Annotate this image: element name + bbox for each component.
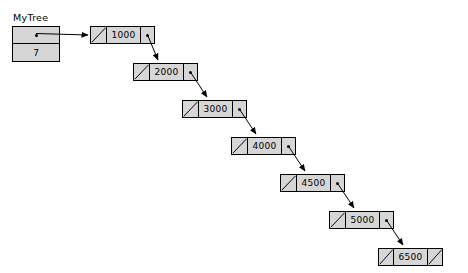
node-next-pointer-cell bbox=[379, 212, 393, 228]
node-next-pointer-cell bbox=[330, 175, 344, 191]
tree-header: MyTree 7 bbox=[12, 12, 60, 62]
node-value: 4000 bbox=[248, 138, 280, 154]
pointer-dot-icon bbox=[146, 34, 149, 37]
tree-root-pointer-cell bbox=[13, 27, 59, 44]
node-value: 3000 bbox=[199, 101, 231, 117]
null-slash-icon bbox=[91, 27, 107, 43]
node-next-pointer-cell bbox=[232, 101, 246, 117]
list-node: 2000 bbox=[133, 63, 198, 81]
linked-list-diagram: MyTree 7 1000200030004000450050006500 bbox=[0, 0, 468, 273]
null-slash-icon bbox=[379, 249, 394, 265]
pointer-dot-icon bbox=[336, 182, 339, 185]
tree-count-cell: 7 bbox=[13, 44, 59, 61]
list-node: 5000 bbox=[329, 211, 394, 229]
null-slash-icon bbox=[281, 175, 297, 191]
list-node: 1000 bbox=[90, 26, 155, 44]
list-node: 4000 bbox=[231, 137, 296, 155]
node-next-pointer-cell bbox=[183, 64, 197, 80]
node-value: 1000 bbox=[107, 27, 139, 43]
pointer-dot-icon bbox=[35, 34, 38, 37]
pointer-dot-icon bbox=[287, 145, 290, 148]
pointer-dot-icon bbox=[385, 219, 388, 222]
null-slash-icon bbox=[183, 101, 199, 117]
node-next-pointer-cell bbox=[140, 27, 154, 43]
list-node: 4500 bbox=[280, 174, 345, 192]
page-title: MyTree bbox=[12, 12, 60, 23]
null-slash-icon bbox=[330, 212, 346, 228]
null-slash-icon bbox=[427, 249, 442, 265]
node-value: 4500 bbox=[297, 175, 329, 191]
null-slash-icon bbox=[232, 138, 248, 154]
node-value: 5000 bbox=[346, 212, 378, 228]
node-value: 6500 bbox=[394, 249, 426, 265]
node-value: 2000 bbox=[150, 64, 182, 80]
list-node: 3000 bbox=[182, 100, 247, 118]
list-node: 6500 bbox=[378, 248, 443, 266]
tree-header-box: 7 bbox=[12, 26, 60, 62]
pointer-dot-icon bbox=[189, 71, 192, 74]
pointer-dot-icon bbox=[238, 108, 241, 111]
node-next-pointer-cell bbox=[281, 138, 295, 154]
null-slash-icon bbox=[134, 64, 150, 80]
